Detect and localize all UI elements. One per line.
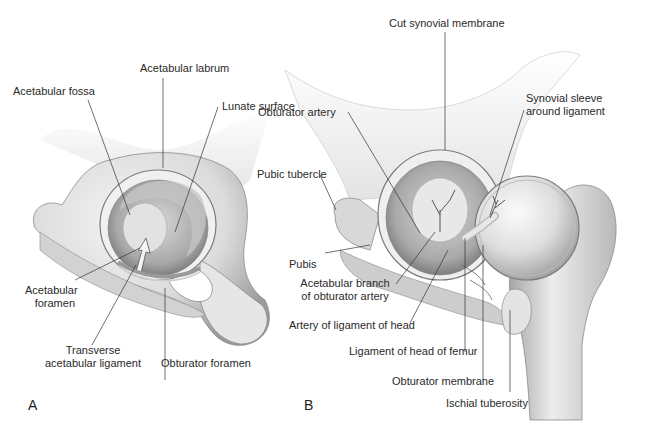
label-ischial-tuberosity: Ischial tuberosity [446, 397, 528, 410]
label-obturator-artery: Obturator artery [258, 106, 336, 119]
label-obturator-foramen: Obturator foramen [161, 357, 251, 370]
panel-letter-a: A [28, 397, 37, 413]
panel-letter-b: B [304, 397, 313, 413]
label-ligament-of-head-of-femur: Ligament of head of femur [349, 345, 477, 358]
label-artery-of-ligament-of-head: Artery of ligament of head [289, 319, 415, 332]
label-acetabular-branch: Acetabular branch of obturator artery [290, 277, 400, 303]
label-cut-synovial-membrane: Cut synovial membrane [389, 17, 505, 30]
label-transverse-acetabular-ligament: Transverse acetabular ligament [38, 344, 148, 370]
label-acetabular-labrum: Acetabular labrum [140, 62, 229, 75]
label-acetabular-fossa: Acetabular fossa [13, 85, 95, 98]
label-obturator-membrane: Obturator membrane [392, 375, 494, 388]
label-synovial-sleeve: Synovial sleeve around ligament [526, 92, 605, 118]
label-acetabular-foramen: Acetabular foramen [25, 284, 75, 310]
label-pubic-tubercle: Pubic tubercle [257, 168, 327, 181]
anatomy-figure: Acetabular labrum Acetabular fossa Lunat… [0, 0, 647, 429]
panel-a-artwork [33, 110, 270, 345]
label-pubis: Pubis [289, 258, 317, 271]
